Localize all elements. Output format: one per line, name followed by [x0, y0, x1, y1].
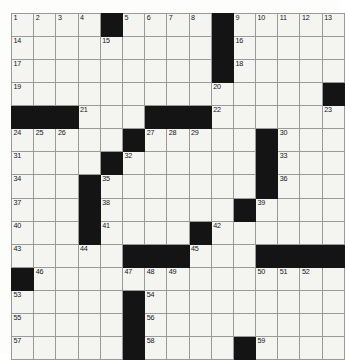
crossword-cell[interactable] — [322, 313, 344, 336]
crossword-cell[interactable] — [56, 152, 78, 175]
crossword-cell[interactable] — [145, 60, 167, 83]
crossword-cell[interactable] — [34, 313, 56, 336]
crossword-cell[interactable] — [233, 106, 255, 129]
crossword-cell[interactable]: 2 — [34, 14, 56, 37]
crossword-cell[interactable]: 38 — [100, 198, 122, 221]
crossword-cell[interactable] — [322, 129, 344, 152]
crossword-cell[interactable] — [145, 152, 167, 175]
crossword-cell[interactable] — [278, 336, 300, 359]
crossword-cell[interactable] — [256, 60, 278, 83]
crossword-cell[interactable] — [300, 221, 322, 244]
crossword-cell[interactable] — [34, 290, 56, 313]
crossword-cell[interactable] — [78, 83, 100, 106]
crossword-cell[interactable] — [211, 267, 233, 290]
crossword-cell[interactable] — [189, 313, 211, 336]
crossword-cell[interactable] — [100, 129, 122, 152]
crossword-cell[interactable]: 23 — [322, 106, 344, 129]
crossword-cell[interactable] — [322, 290, 344, 313]
crossword-cell[interactable] — [278, 83, 300, 106]
crossword-cell[interactable]: 14 — [12, 37, 34, 60]
crossword-cell[interactable]: 44 — [78, 244, 100, 267]
crossword-cell[interactable]: 45 — [189, 244, 211, 267]
crossword-cell[interactable] — [100, 290, 122, 313]
crossword-cell[interactable] — [34, 244, 56, 267]
crossword-cell[interactable] — [233, 290, 255, 313]
crossword-cell[interactable] — [34, 152, 56, 175]
crossword-cell[interactable]: 59 — [256, 336, 278, 359]
crossword-cell[interactable] — [78, 336, 100, 359]
crossword-cell[interactable] — [300, 336, 322, 359]
crossword-cell[interactable] — [300, 83, 322, 106]
crossword-cell[interactable] — [167, 336, 189, 359]
crossword-cell[interactable]: 25 — [34, 129, 56, 152]
crossword-cell[interactable] — [78, 267, 100, 290]
crossword-cell[interactable]: 52 — [300, 267, 322, 290]
crossword-cell[interactable]: 12 — [300, 14, 322, 37]
crossword-cell[interactable] — [167, 152, 189, 175]
crossword-cell[interactable] — [189, 198, 211, 221]
crossword-cell[interactable] — [78, 129, 100, 152]
crossword-cell[interactable] — [167, 60, 189, 83]
crossword-cell[interactable] — [34, 198, 56, 221]
crossword-cell[interactable] — [233, 152, 255, 175]
crossword-cell[interactable]: 51 — [278, 267, 300, 290]
crossword-cell[interactable] — [56, 267, 78, 290]
crossword-cell[interactable] — [233, 244, 255, 267]
crossword-cell[interactable] — [278, 290, 300, 313]
crossword-cell[interactable] — [256, 83, 278, 106]
crossword-cell[interactable]: 42 — [211, 221, 233, 244]
crossword-cell[interactable] — [233, 175, 255, 198]
crossword-cell[interactable]: 28 — [167, 129, 189, 152]
crossword-cell[interactable] — [122, 60, 144, 83]
crossword-cell[interactable] — [300, 175, 322, 198]
crossword-cell[interactable] — [256, 37, 278, 60]
crossword-cell[interactable] — [78, 313, 100, 336]
crossword-cell[interactable]: 53 — [12, 290, 34, 313]
crossword-cell[interactable]: 50 — [256, 267, 278, 290]
crossword-cell[interactable] — [322, 60, 344, 83]
crossword-cell[interactable] — [100, 313, 122, 336]
crossword-cell[interactable] — [322, 198, 344, 221]
crossword-cell[interactable]: 1 — [12, 14, 34, 37]
crossword-cell[interactable] — [56, 244, 78, 267]
crossword-cell[interactable] — [56, 83, 78, 106]
crossword-cell[interactable] — [122, 198, 144, 221]
crossword-cell[interactable]: 10 — [256, 14, 278, 37]
crossword-cell[interactable] — [300, 198, 322, 221]
crossword-cell[interactable]: 41 — [100, 221, 122, 244]
crossword-cell[interactable] — [100, 106, 122, 129]
crossword-cell[interactable]: 33 — [278, 152, 300, 175]
crossword-cell[interactable]: 6 — [145, 14, 167, 37]
crossword-cell[interactable] — [34, 221, 56, 244]
crossword-cell[interactable] — [211, 175, 233, 198]
crossword-cell[interactable]: 49 — [167, 267, 189, 290]
crossword-cell[interactable] — [189, 336, 211, 359]
crossword-cell[interactable] — [322, 221, 344, 244]
crossword-cell[interactable] — [145, 83, 167, 106]
crossword-cell[interactable]: 21 — [78, 106, 100, 129]
crossword-cell[interactable]: 17 — [12, 60, 34, 83]
crossword-cell[interactable]: 43 — [12, 244, 34, 267]
crossword-cell[interactable] — [122, 175, 144, 198]
crossword-cell[interactable] — [300, 313, 322, 336]
crossword-cell[interactable] — [189, 83, 211, 106]
crossword-cell[interactable]: 18 — [233, 60, 255, 83]
crossword-cell[interactable]: 9 — [233, 14, 255, 37]
crossword-cell[interactable] — [78, 152, 100, 175]
crossword-cell[interactable] — [300, 106, 322, 129]
crossword-cell[interactable] — [100, 267, 122, 290]
crossword-cell[interactable] — [167, 221, 189, 244]
crossword-cell[interactable] — [233, 267, 255, 290]
crossword-cell[interactable] — [189, 60, 211, 83]
crossword-cell[interactable]: 40 — [12, 221, 34, 244]
crossword-cell[interactable] — [122, 83, 144, 106]
crossword-cell[interactable]: 36 — [278, 175, 300, 198]
crossword-cell[interactable] — [122, 37, 144, 60]
crossword-cell[interactable] — [278, 37, 300, 60]
crossword-cell[interactable]: 15 — [100, 37, 122, 60]
crossword-cell[interactable] — [167, 198, 189, 221]
crossword-cell[interactable] — [56, 175, 78, 198]
crossword-cell[interactable] — [34, 175, 56, 198]
crossword-cell[interactable]: 54 — [145, 290, 167, 313]
crossword-cell[interactable]: 13 — [322, 14, 344, 37]
